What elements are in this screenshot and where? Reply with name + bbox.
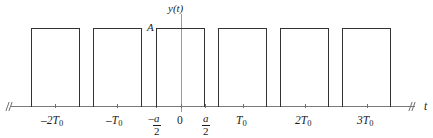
pulse-minus-1 — [93, 28, 142, 107]
xtick-label-T0: T0 — [236, 115, 247, 128]
xtick-label-2T0: 2T0 — [295, 115, 311, 128]
xtick-label-minus-2T0-sub: 0 — [59, 118, 63, 128]
amplitude-label: A — [147, 22, 154, 33]
xtick-label-T0-sub: 0 — [242, 118, 246, 128]
xtick-label-minus-a-over-2-denominator: 2 — [153, 126, 161, 138]
xtick-label-minus-T0-sub: 0 — [118, 118, 122, 128]
tick-a-over-2 — [205, 104, 206, 108]
xtick-label-3T0-main: 3T — [357, 114, 369, 126]
signal-label: y(t) — [168, 3, 183, 14]
xtick-label-zero: 0 — [177, 115, 183, 127]
axis-break-right-icon — [408, 102, 417, 111]
xtick-label-minus-T0: –T0 — [106, 115, 122, 128]
xtick-label-a-over-2-numerator: a — [202, 113, 210, 126]
pulse-zero — [156, 28, 205, 107]
axis-break-left-icon — [5, 102, 14, 111]
xtick-label-a-over-2: a 2 — [202, 113, 210, 137]
pulse-minus-2 — [31, 28, 80, 107]
time-axis-label: t — [424, 101, 427, 113]
xtick-label-minus-a-over-2: – a 2 — [153, 113, 161, 137]
pulse-train-figure: y(t) A t –2T0 –T0 – a 2 0 a 2 T0 2T0 3T0 — [0, 0, 433, 138]
xtick-label-minus-a-over-2-sign: – — [149, 113, 155, 124]
xtick-label-3T0: 3T0 — [357, 115, 373, 128]
xtick-label-minus-T0-main: –T — [106, 114, 118, 126]
xtick-label-minus-2T0: –2T0 — [41, 115, 63, 128]
xtick-label-2T0-main: 2T — [295, 114, 307, 126]
pulse-plus-3 — [342, 28, 391, 107]
xtick-label-3T0-sub: 0 — [369, 118, 373, 128]
pulse-plus-2 — [280, 28, 329, 107]
xtick-label-minus-a-over-2-numerator: a — [153, 113, 161, 126]
xtick-label-2T0-sub: 0 — [307, 118, 311, 128]
xtick-label-a-over-2-denominator: 2 — [202, 126, 210, 138]
xtick-label-minus-2T0-main: –2T — [41, 114, 59, 126]
pulse-plus-1 — [218, 28, 267, 107]
